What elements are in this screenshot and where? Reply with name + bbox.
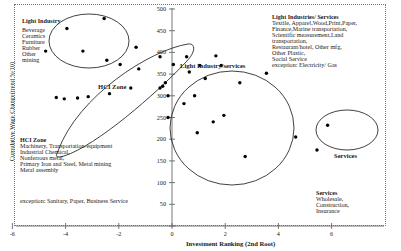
data-point (193, 94, 196, 97)
data-point (238, 81, 241, 84)
y-tick-label: 500 (142, 5, 166, 12)
data-point (65, 27, 68, 30)
cluster-ellipse-light-industry (49, 14, 129, 68)
data-point (118, 63, 121, 66)
data-point (185, 55, 188, 58)
data-point (164, 81, 167, 84)
data-point (81, 49, 84, 52)
cluster-label-hci-zone: HCI Zone (98, 83, 126, 90)
annotation-hci-zone: HCI Zone Machinery, Transportation-equip… (20, 137, 112, 173)
annotation-light-industries-services-exception: exception: Electricity/ Gas (272, 62, 357, 68)
chart-figure: Cumulative Wage Change(trend %/10) Inves… (0, 0, 401, 251)
data-point (166, 116, 169, 119)
annotation-light-industries-services: Light Industries/ Services Textile, Appa… (272, 14, 357, 68)
y-tick-label: 300 (142, 92, 166, 99)
annotation-light-industry: Light Industry Beverage Ceramics Furnitu… (22, 18, 60, 63)
data-point (243, 155, 246, 158)
data-point (315, 148, 318, 151)
data-point (129, 86, 132, 89)
x-tick-label: -4 (61, 230, 71, 237)
y-tick-label: 350 (142, 70, 166, 77)
data-point (76, 96, 79, 99)
x-tick-label: -6 (7, 230, 17, 237)
cluster-label-services: Services (334, 152, 357, 159)
y-tick-label: 250 (142, 114, 166, 121)
data-point (137, 67, 140, 70)
data-point (55, 96, 58, 99)
annotation-light-industry-title: Light Industry (22, 18, 60, 24)
data-point (182, 102, 185, 105)
data-point (87, 95, 90, 98)
cluster-ellipse-services (316, 110, 378, 150)
data-point (214, 54, 217, 57)
y-tick-label: 50 (142, 200, 166, 207)
data-point (158, 55, 161, 58)
cluster-ellipse-light-industry-services (170, 71, 294, 185)
data-point (196, 131, 199, 134)
x-tick-label: 2 (220, 230, 230, 237)
x-tick-label: 6 (327, 230, 337, 237)
y-tick-label: 200 (142, 135, 166, 142)
data-point (166, 94, 169, 97)
data-point (204, 77, 207, 80)
data-point (134, 45, 137, 48)
data-point (102, 17, 105, 20)
annotation-line: mining (22, 57, 60, 63)
cluster-label-light-industry-services: Light Industry/services (180, 62, 245, 69)
data-point (108, 92, 111, 95)
data-point (105, 59, 108, 62)
y-tick-label: 450 (142, 27, 166, 34)
annotation-hci-zone-exception: exception: Sanitary, Paper, Business Ser… (20, 198, 128, 204)
annotation-line: Insurance (316, 208, 349, 214)
annotation-services: Services Wholesale, Construction, Insura… (316, 190, 349, 214)
data-point (222, 114, 225, 117)
data-point (326, 124, 329, 127)
x-tick-label: 0 (167, 230, 177, 237)
y-tick-label: 400 (142, 48, 166, 55)
data-point (212, 120, 215, 123)
data-point (63, 97, 66, 100)
data-point (294, 135, 297, 138)
annotation-line: Metal assembly (20, 167, 112, 173)
data-point (265, 72, 268, 75)
y-tick-label: 100 (142, 179, 166, 186)
data-point (172, 63, 175, 66)
data-point (188, 70, 191, 73)
x-tick-label: -2 (114, 230, 124, 237)
data-point (158, 86, 161, 89)
y-tick-label: 150 (142, 157, 166, 164)
x-tick-label: 4 (273, 230, 283, 237)
